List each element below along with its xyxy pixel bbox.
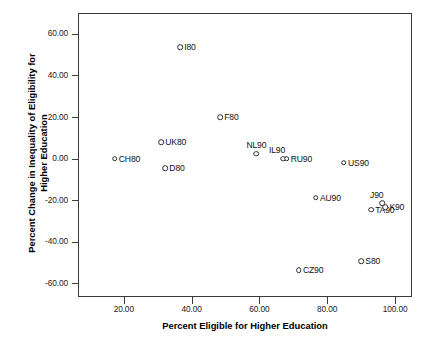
data-point-marker <box>341 160 347 166</box>
data-point-marker <box>296 267 302 273</box>
data-point-marker <box>112 156 118 162</box>
y-axis-title-line2: Higher Education <box>38 114 49 192</box>
y-tick-mark <box>72 117 79 118</box>
data-point-marker <box>162 165 168 171</box>
data-point-label: CH80 <box>119 154 140 164</box>
data-point-label: US90 <box>348 158 369 168</box>
data-point-label: RU90 <box>291 154 312 164</box>
y-axis-title-line1: Percent Change in Inequality of Eligibil… <box>26 53 37 253</box>
data-point-label: D80 <box>169 163 184 173</box>
y-tick-label: 0.00 <box>52 153 68 163</box>
x-tick-mark <box>327 297 328 304</box>
x-tick-label: 60.00 <box>249 304 269 314</box>
x-tick-mark <box>395 297 396 304</box>
x-tick-mark <box>192 297 193 304</box>
y-tick-mark <box>72 283 79 284</box>
y-tick-mark <box>72 242 79 243</box>
data-point-marker <box>382 204 388 210</box>
data-point-marker <box>217 115 223 121</box>
data-point-marker <box>368 207 374 213</box>
x-tick-label: 100.00 <box>383 304 408 314</box>
data-point-label: IL90 <box>269 145 285 155</box>
data-point-label: K90 <box>389 202 404 212</box>
x-tick-label: 20.00 <box>114 304 134 314</box>
x-axis-title: Percent Eligible for Higher Education <box>78 320 412 331</box>
data-point-marker <box>284 156 290 162</box>
data-point-label: AU90 <box>320 193 341 203</box>
data-point-label: J90 <box>370 190 383 200</box>
data-point-label: CZ90 <box>303 265 323 275</box>
data-point-label: F80 <box>224 112 238 122</box>
data-point-marker <box>358 258 364 264</box>
y-tick-mark <box>72 200 79 201</box>
y-tick-label: 20.00 <box>48 112 68 122</box>
y-tick-mark <box>72 159 79 160</box>
x-tick-label: 40.00 <box>181 304 201 314</box>
data-point-marker <box>177 45 183 51</box>
data-point-marker <box>158 139 164 145</box>
data-point-label: I80 <box>184 42 196 52</box>
data-point-label: S80 <box>365 256 380 266</box>
scatter-plot-figure: 60.0040.0020.000.00-20.00-40.00-60.00 20… <box>0 0 425 342</box>
x-tick-mark <box>259 297 260 304</box>
y-tick-mark <box>72 34 79 35</box>
y-axis-title: Percent Change in Inequality of Eligibil… <box>26 19 50 287</box>
x-tick-mark <box>124 297 125 304</box>
data-point-marker <box>313 195 319 201</box>
data-point-marker <box>254 151 260 157</box>
y-tick-label: 40.00 <box>48 70 68 80</box>
data-point-label: UK80 <box>165 137 186 147</box>
x-tick-label: 80.00 <box>317 304 337 314</box>
y-tick-label: 60.00 <box>48 28 68 38</box>
y-tick-mark <box>72 75 79 76</box>
data-point-label: NL90 <box>246 140 266 150</box>
